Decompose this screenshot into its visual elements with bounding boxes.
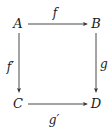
edge-f-prime [17,33,21,93]
commutative-diagram: A B C D f g f′ g′ [0,0,110,133]
edge-g-prime [28,102,88,106]
node-d: D [90,96,102,111]
edge-label-f: f [52,6,60,20]
node-b: B [90,16,101,31]
edge-f [28,22,88,26]
node-a: A [12,16,22,31]
edge-g [94,33,98,93]
edge-label-f-prime: f′ [6,60,14,74]
edge-label-g: g [100,57,108,71]
edge-label-g-prime: g′ [49,113,60,127]
node-c: C [13,96,23,111]
